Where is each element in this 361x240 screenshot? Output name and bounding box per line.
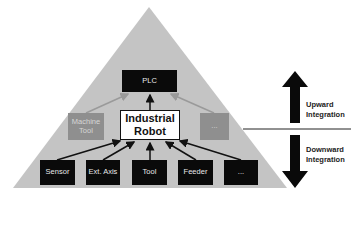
downward-label-line1: Downward bbox=[306, 145, 345, 155]
ext-axis-box: Ext. Axis bbox=[86, 160, 120, 185]
upward-label-line2: Integration bbox=[306, 110, 345, 120]
industrial-robot-box: Industrial Robot bbox=[120, 110, 180, 140]
robot-label-line1: Industrial bbox=[125, 112, 175, 125]
upward-label-line1: Upward bbox=[306, 100, 345, 110]
sensor-box: Sensor bbox=[40, 160, 75, 185]
other-bottom-box: ... bbox=[224, 160, 258, 185]
tool-box: Tool bbox=[132, 160, 167, 185]
downward-arrow-icon bbox=[282, 135, 308, 188]
downward-integration-label: Downward Integration bbox=[306, 145, 345, 165]
machine-tool-box: Machine Tool bbox=[68, 113, 104, 140]
upward-integration-label: Upward Integration bbox=[306, 100, 345, 120]
feeder-box: Feeder bbox=[178, 160, 213, 185]
other-middle-box: ... bbox=[200, 113, 229, 140]
upward-arrow-icon bbox=[282, 71, 308, 123]
downward-label-line2: Integration bbox=[306, 155, 345, 165]
plc-box: PLC bbox=[122, 70, 177, 92]
robot-label-line2: Robot bbox=[134, 125, 166, 138]
